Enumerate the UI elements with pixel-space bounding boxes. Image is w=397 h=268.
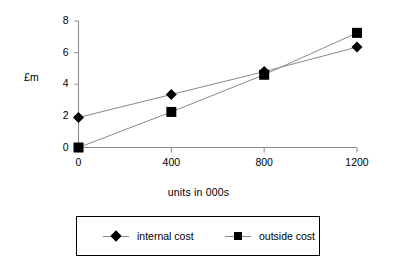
series-line-outside-cost bbox=[79, 33, 358, 148]
y-tick-label: 2 bbox=[49, 109, 69, 121]
line-chart: £m 02468 04008001200 units in 000s inter… bbox=[0, 0, 397, 268]
x-tick-label: 0 bbox=[59, 156, 99, 168]
x-tick-label: 400 bbox=[151, 156, 191, 168]
legend-item-outside-cost: outside cost bbox=[225, 229, 315, 243]
x-tick-label: 1200 bbox=[337, 156, 377, 168]
y-tick-label: 6 bbox=[49, 46, 69, 58]
series-lines bbox=[79, 33, 358, 148]
square-marker-icon bbox=[225, 229, 251, 243]
legend-label-outside-cost: outside cost bbox=[259, 230, 315, 242]
y-tick-label: 8 bbox=[49, 14, 69, 26]
legend-item-internal-cost: internal cost bbox=[103, 229, 194, 243]
data-point-square bbox=[352, 28, 362, 38]
series-line-internal-cost bbox=[79, 47, 358, 117]
data-point-square bbox=[74, 143, 84, 153]
data-point-square bbox=[259, 70, 269, 80]
y-axis-ticks bbox=[75, 21, 79, 148]
series-markers bbox=[73, 28, 363, 153]
x-tick-label: 800 bbox=[244, 156, 284, 168]
legend-label-internal-cost: internal cost bbox=[137, 230, 194, 242]
data-point-square bbox=[166, 107, 176, 117]
diamond-marker-icon bbox=[103, 229, 129, 243]
x-axis-ticks bbox=[79, 148, 358, 153]
data-point-diamond bbox=[352, 42, 363, 53]
y-tick-label: 0 bbox=[49, 141, 69, 153]
x-axis-title: units in 000s bbox=[0, 186, 397, 198]
y-tick-label: 4 bbox=[49, 77, 69, 89]
legend: internal cost outside cost bbox=[76, 216, 320, 256]
data-point-diamond bbox=[73, 112, 84, 123]
data-point-diamond bbox=[166, 89, 177, 100]
